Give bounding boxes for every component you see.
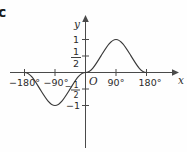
fraction-numerator: 1 xyxy=(73,81,78,90)
plot-area: y x O −180° −90° 90° 180° 1 −1 1 2 − 1 2 xyxy=(0,0,187,152)
x-tick-label-180: 180° xyxy=(139,77,162,88)
x-axis-label: x xyxy=(178,74,184,86)
fraction-denominator: 2 xyxy=(73,58,79,69)
y-axis-arrow-icon xyxy=(82,15,89,22)
y-tick-label-1: 1 xyxy=(73,34,79,45)
fraction-denominator: 2 xyxy=(73,91,78,100)
y-axis-label: y xyxy=(73,18,81,30)
y-tick-label-minus-half: − 1 2 xyxy=(65,81,80,100)
x-tick-label-minus180: −180° xyxy=(9,77,40,88)
origin-label: O xyxy=(89,75,98,87)
fraction-sign: − xyxy=(65,82,72,91)
fraction-numerator: 1 xyxy=(73,46,79,57)
y-tick-label-half: 1 2 xyxy=(71,46,81,69)
sine-graph-figure: c y x O −180° −90° 90° 180° 1 −1 xyxy=(0,0,187,152)
y-tick-label-minus1: −1 xyxy=(66,100,80,111)
x-tick-label-90: 90° xyxy=(108,77,125,88)
